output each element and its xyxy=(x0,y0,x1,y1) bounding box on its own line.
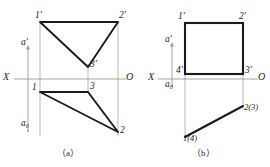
engineering-drawing-canvas xyxy=(0,0,270,167)
label-a-sub-a: a₀ xyxy=(21,119,29,129)
label-2-3-b: 2(3) xyxy=(244,103,258,112)
label-2-a: 2 xyxy=(120,126,125,136)
caption-b: （b） xyxy=(192,146,215,159)
caption-a: （a） xyxy=(57,146,79,159)
label-1-4-b: 1(4) xyxy=(183,134,197,143)
top-view-triangle-a xyxy=(40,92,118,132)
diagram-a-group xyxy=(14,22,126,136)
front-view-triangle-a xyxy=(40,22,118,67)
label-3-a: 3 xyxy=(90,82,95,92)
label-4-prime-b: 4' xyxy=(176,66,183,76)
label-x-axis-b: X xyxy=(148,72,154,82)
label-3-prime-b: 3' xyxy=(245,66,252,76)
label-2-prime-b: 2' xyxy=(239,12,246,22)
label-a-prime-a: a' xyxy=(21,38,28,48)
front-view-rectangle-b xyxy=(185,23,243,74)
figure-root: 1' 2' 3' 1 2 3 X O a' a₀ （a） 1' 2' 3' 4'… xyxy=(0,0,270,167)
label-1-prime-b: 1' xyxy=(178,12,185,22)
diagram-b-construction-lines xyxy=(185,74,243,138)
label-a-prime-b: a' xyxy=(165,35,172,45)
label-3-prime-a: 3' xyxy=(90,60,97,70)
label-1-a: 1 xyxy=(32,83,37,93)
label-x-axis-a: X xyxy=(3,72,9,82)
label-1-prime-a: 1' xyxy=(35,11,42,21)
label-o-axis-a: O xyxy=(126,72,133,82)
vertical-axis-endpoint-a xyxy=(27,130,29,132)
label-a-sub-b: a₀ xyxy=(165,80,173,90)
label-2-prime-a: 2' xyxy=(119,11,126,21)
label-o-axis-b: O xyxy=(258,72,265,82)
